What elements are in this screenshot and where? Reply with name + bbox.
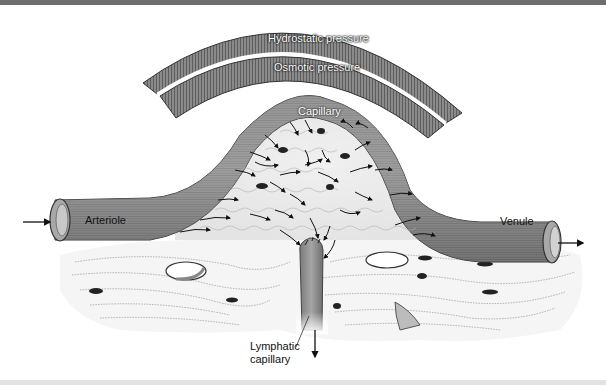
cell-nucleus	[417, 273, 427, 279]
cell-nucleus	[333, 303, 341, 309]
osmotic-pressure-label: Osmotic pressure	[274, 61, 360, 73]
bottom-border-bar	[0, 380, 606, 385]
lymphatic-capillary-label-line2: capillary	[250, 353, 290, 365]
arteriole-label: Arteriole	[85, 214, 126, 226]
capillary-label: Capillary	[298, 105, 341, 117]
cell-nucleus	[278, 147, 288, 153]
capillary-exchange-diagram	[0, 0, 606, 385]
lymphatic-capillary-label-line1: Lymphatic	[250, 340, 300, 352]
cell-nucleus	[418, 256, 432, 261]
adipocyte-right	[366, 252, 408, 268]
cell-nucleus	[256, 183, 268, 189]
venule-label: Venule	[500, 215, 534, 227]
cell-nucleus	[89, 288, 103, 294]
cell-nucleus	[482, 290, 498, 295]
cell-nucleus	[317, 128, 325, 134]
cell-nucleus	[226, 298, 238, 303]
cell-nucleus	[326, 184, 334, 190]
hydrostatic-pressure-label: Hydrostatic pressure	[268, 32, 369, 44]
cell-nucleus	[340, 153, 350, 159]
